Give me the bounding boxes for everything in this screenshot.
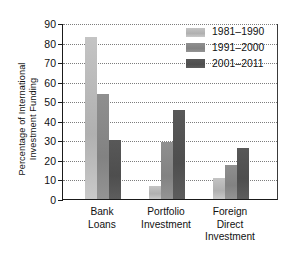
bar xyxy=(237,148,249,199)
y-tick-label-60: 60 xyxy=(29,78,56,89)
y-tick-0 xyxy=(58,200,63,201)
y-tick-label-20: 20 xyxy=(29,156,56,167)
legend-label: 2001–2011 xyxy=(212,59,264,69)
bar-group xyxy=(149,24,185,199)
y-tick-label-30: 30 xyxy=(29,136,56,147)
bar xyxy=(213,178,225,199)
legend-swatch-icon xyxy=(186,43,205,52)
legend-item: 2001–2011 xyxy=(186,59,264,69)
bar xyxy=(97,94,109,199)
legend-label: 1991–2000 xyxy=(212,43,264,53)
legend-swatch-icon xyxy=(186,28,205,37)
x-axis-label: Foreign Direct Investment xyxy=(185,206,275,244)
bar xyxy=(85,37,97,199)
bar xyxy=(149,186,161,199)
legend-item: 1991–2000 xyxy=(186,43,264,53)
bar xyxy=(161,142,173,199)
y-tick-label-80: 80 xyxy=(29,39,56,50)
bar-chart: Percentage of International Investment F… xyxy=(0,0,293,259)
y-tick-label-10: 10 xyxy=(29,175,56,186)
y-tick-label-50: 50 xyxy=(29,97,56,108)
bar xyxy=(109,140,121,199)
bar-group xyxy=(85,24,121,199)
legend: 1981–19901991–20002001–2011 xyxy=(186,27,264,69)
bar xyxy=(173,110,185,199)
y-tick-label-90: 90 xyxy=(29,19,56,30)
bar xyxy=(225,165,237,199)
legend-item: 1981–1990 xyxy=(186,27,264,37)
y-tick-label-40: 40 xyxy=(29,117,56,128)
legend-swatch-icon xyxy=(186,59,205,68)
y-tick-label-70: 70 xyxy=(29,58,56,69)
y-tick-label-0: 0 xyxy=(29,195,56,206)
legend-label: 1981–1990 xyxy=(212,27,264,37)
